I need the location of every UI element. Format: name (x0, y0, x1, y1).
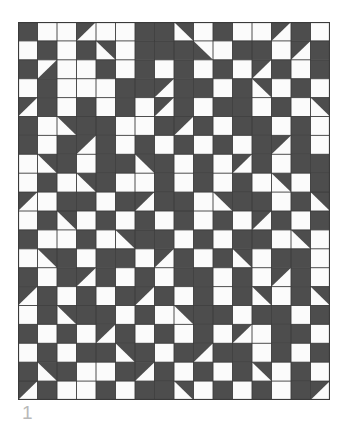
quilt-cell-dark (194, 173, 214, 192)
quilt-cell-dark (96, 154, 116, 173)
quilt-cell (272, 192, 292, 211)
quilt-cell-dark (233, 41, 253, 60)
quilt-cell (38, 22, 58, 41)
quilt-cell (272, 41, 292, 60)
quilt-cell (135, 117, 155, 136)
quilt-cell (233, 22, 253, 41)
quilt-cell (291, 343, 311, 362)
quilt-cell (116, 211, 136, 230)
quilt-cell-dark (233, 117, 253, 136)
quilt-cell (18, 343, 38, 362)
quilt-cell-dark (194, 154, 214, 173)
quilt-cell-dark (155, 381, 175, 400)
quilt-cell-dark (116, 287, 136, 306)
quilt-cell (18, 154, 38, 173)
quilt-cell (233, 381, 253, 400)
quilt-cell-dark (96, 343, 116, 362)
quilt-cell-dark (311, 60, 331, 79)
quilt-cell (311, 79, 331, 98)
quilt-cell (18, 173, 38, 192)
quilt-cell (116, 41, 136, 60)
quilt-cell-dark (311, 211, 331, 230)
quilt-cell-dark (213, 249, 233, 268)
quilt-cell-dark (194, 117, 214, 136)
quilt-cell-dark (174, 268, 194, 287)
quilt-cell-dark (155, 41, 175, 60)
quilt-cell (18, 41, 38, 60)
quilt-cell (155, 268, 175, 287)
quilt-cell (57, 22, 77, 41)
quilt-cell-dark (155, 173, 175, 192)
quilt-cell (311, 324, 331, 343)
quilt-cell-dark (135, 60, 155, 79)
quilt-cell-dark (116, 79, 136, 98)
quilt-cell-dark (252, 135, 272, 154)
quilt-cell (174, 230, 194, 249)
quilt-cell (116, 381, 136, 400)
quilt-cell-dark (272, 306, 292, 325)
quilt-cell (18, 249, 38, 268)
quilt-cell-dark (174, 135, 194, 154)
quilt-cell (311, 22, 331, 41)
quilt-cell-dark (174, 211, 194, 230)
quilt-cell-dark (194, 362, 214, 381)
quilt-cell (272, 117, 292, 136)
quilt-cell-dark (252, 41, 272, 60)
quilt-cell (18, 211, 38, 230)
quilt-cell (38, 192, 58, 211)
quilt-cell-dark (174, 98, 194, 117)
quilt-cell-dark (311, 343, 331, 362)
quilt-cell-dark (233, 98, 253, 117)
quilt-cell (57, 79, 77, 98)
quilt-cell (174, 154, 194, 173)
quilt-cell-dark (174, 249, 194, 268)
quilt-cell-dark (272, 211, 292, 230)
quilt-cell (233, 135, 253, 154)
quilt-pattern-grid (18, 22, 330, 400)
quilt-cell (252, 343, 272, 362)
quilt-cell-dark (194, 230, 214, 249)
quilt-cell (155, 60, 175, 79)
quilt-cell (252, 98, 272, 117)
quilt-cell-dark (291, 79, 311, 98)
quilt-cell-dark (116, 154, 136, 173)
quilt-cell (155, 211, 175, 230)
quilt-cell (252, 324, 272, 343)
quilt-cell-dark (96, 117, 116, 136)
quilt-cell-dark (96, 268, 116, 287)
quilt-cell (77, 154, 97, 173)
quilt-cell-dark (77, 306, 97, 325)
quilt-cell-dark (311, 173, 331, 192)
quilt-cell-dark (38, 306, 58, 325)
quilt-cell (96, 230, 116, 249)
quilt-cell (213, 154, 233, 173)
quilt-cell-dark (57, 324, 77, 343)
quilt-cell (252, 173, 272, 192)
quilt-cell (96, 362, 116, 381)
quilt-cell-dark (252, 381, 272, 400)
quilt-cell-dark (272, 60, 292, 79)
quilt-cell (233, 60, 253, 79)
quilt-cell-dark (77, 98, 97, 117)
quilt-cell (38, 135, 58, 154)
quilt-cell-dark (291, 287, 311, 306)
quilt-cell (38, 268, 58, 287)
quilt-cell (38, 230, 58, 249)
quilt-cell-dark (194, 324, 214, 343)
quilt-cell-dark (135, 22, 155, 41)
quilt-cell (213, 173, 233, 192)
quilt-cell-dark (96, 60, 116, 79)
quilt-cell-dark (291, 249, 311, 268)
quilt-cell-dark (116, 362, 136, 381)
quilt-cell-dark (311, 306, 331, 325)
quilt-cell (77, 79, 97, 98)
figure-caption: 1 (22, 400, 82, 426)
quilt-cell (252, 268, 272, 287)
quilt-cell-dark (233, 192, 253, 211)
quilt-cell-dark (57, 268, 77, 287)
quilt-cell (213, 117, 233, 136)
quilt-cell (233, 306, 253, 325)
quilt-cell (311, 249, 331, 268)
quilt-cell (272, 287, 292, 306)
quilt-cell-dark (194, 79, 214, 98)
